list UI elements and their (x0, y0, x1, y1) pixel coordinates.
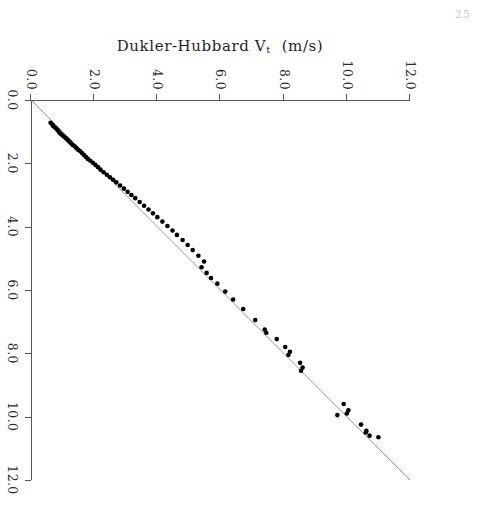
figure-scatter-plot: 25 0.02.04.06.08.010.012.0 0.02.04.06.08… (0, 0, 488, 524)
data-point (160, 219, 165, 224)
x-axis-tick (25, 100, 31, 101)
data-point (196, 254, 201, 259)
data-point (175, 233, 180, 238)
x-axis-tick (25, 163, 31, 164)
y-axis-tick (346, 94, 347, 100)
data-point (231, 297, 236, 302)
data-point (125, 190, 130, 195)
y-axis-tick-label: 0.0 (24, 48, 39, 90)
y-axis-title-subscript: t (266, 44, 271, 55)
y-axis-tick (30, 94, 31, 100)
data-point (190, 248, 195, 253)
x-axis-tick (25, 480, 31, 481)
data-point (155, 215, 160, 220)
data-point (253, 318, 258, 323)
data-point (223, 289, 228, 294)
data-point (185, 243, 190, 248)
data-point (341, 402, 346, 407)
data-point (215, 281, 220, 286)
y-axis-title-main: Dukler-Hubbard V (117, 37, 267, 55)
y-axis-tick (156, 94, 157, 100)
x-axis-tick-label: 10.0 (5, 402, 20, 431)
data-point (151, 211, 156, 216)
y-axis-tick (219, 94, 220, 100)
data-point (299, 368, 304, 373)
x-axis-tick (25, 353, 31, 354)
data-point (146, 207, 151, 212)
rotated-plot-container: 0.02.04.06.08.010.012.0 0.02.04.06.08.01… (0, 0, 488, 524)
x-axis-tick-label: 4.0 (5, 216, 20, 237)
x-axis-tick-label: 0.0 (5, 89, 20, 110)
y-axis-tick (409, 94, 410, 100)
data-point (137, 200, 142, 205)
data-point (359, 422, 364, 427)
data-point (129, 193, 134, 198)
x-axis-tick-label: 6.0 (5, 279, 20, 300)
data-canvas (31, 100, 410, 480)
x-axis-tick (25, 417, 31, 418)
y-axis-title: Dukler-Hubbard Vt (m/s) (117, 37, 324, 56)
data-point (376, 435, 381, 440)
data-point (209, 276, 214, 281)
data-point (264, 330, 269, 335)
data-point-group (48, 121, 380, 440)
data-point (199, 265, 204, 270)
data-point (133, 196, 138, 201)
plot-wrapper: 0.02.04.06.08.010.012.0 0.02.04.06.08.01… (0, 0, 488, 524)
y-axis-tick-label: 2.0 (87, 48, 102, 90)
y-axis-tick (283, 94, 284, 100)
data-point (363, 430, 368, 435)
y-axis-title-unit: (m/s) (282, 37, 324, 55)
x-axis-tick-label: 8.0 (5, 343, 20, 364)
data-point (142, 203, 147, 208)
data-point (335, 413, 340, 418)
x-axis-tick-label: 12.0 (5, 465, 20, 494)
y-axis-tick-label: 12.0 (403, 48, 418, 90)
data-point (286, 353, 291, 358)
x-axis-tick (25, 227, 31, 228)
plot-area (31, 100, 410, 480)
y-axis-tick-label: 10.0 (339, 48, 354, 90)
data-point (180, 238, 185, 243)
data-point (274, 337, 279, 342)
data-point (204, 271, 209, 276)
y-axis-tick (93, 94, 94, 100)
x-axis-tick (25, 290, 31, 291)
data-point (170, 228, 175, 233)
data-point (241, 307, 246, 312)
data-point (122, 186, 127, 191)
data-point (283, 345, 288, 350)
data-point (165, 224, 170, 229)
data-point (114, 180, 119, 185)
data-point (298, 361, 303, 366)
data-point (202, 259, 207, 264)
data-point (345, 411, 350, 416)
data-point (367, 433, 372, 438)
data-point (118, 183, 123, 188)
x-axis-tick-label: 2.0 (5, 153, 20, 174)
